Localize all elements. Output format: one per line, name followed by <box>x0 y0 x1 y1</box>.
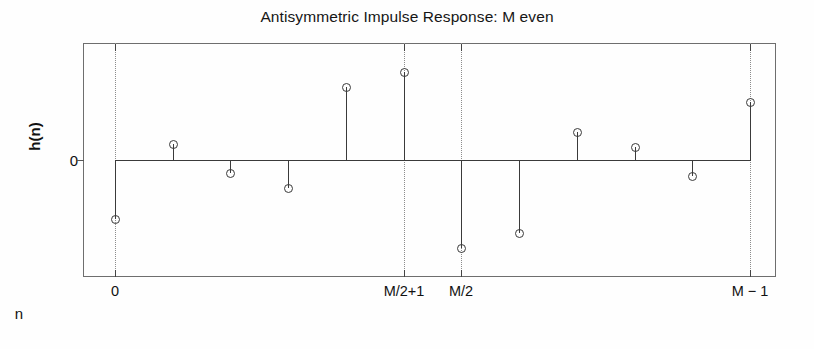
stem-marker-1 <box>169 140 178 149</box>
x-tick-label-0: 0 <box>111 283 119 299</box>
stem-marker-5 <box>400 68 409 77</box>
y-axis-label: h(n) <box>26 97 43 177</box>
x-tick-label-1: M/2+1 <box>384 283 425 299</box>
stem-marker-2 <box>226 169 235 178</box>
x-axis-label-wrap: n <box>0 305 814 322</box>
baseline <box>115 160 751 161</box>
x-tick-mark-top-1 <box>404 44 405 51</box>
y-tick-mark-zero <box>77 160 84 161</box>
stem-line-0 <box>115 160 116 219</box>
x-tick-mark-top-3 <box>750 44 751 51</box>
y-tick-label-zero: 0 <box>62 152 78 169</box>
stem-marker-8 <box>573 128 582 137</box>
stem-marker-6 <box>457 244 466 253</box>
x-tick-mark-bottom-0 <box>115 270 116 277</box>
x-tick-mark-top-0 <box>115 44 116 51</box>
stem-marker-10 <box>688 172 697 181</box>
stem-marker-0 <box>111 215 120 224</box>
x-tick-label-2: M/2 <box>449 283 473 299</box>
stem-marker-4 <box>342 83 351 92</box>
x-tick-mark-bottom-1 <box>404 270 405 277</box>
x-tick-mark-top-2 <box>461 44 462 51</box>
x-tick-mark-bottom-2 <box>461 270 462 277</box>
stem-marker-7 <box>515 229 524 238</box>
x-tick-label-3: M − 1 <box>732 283 769 299</box>
stem-marker-3 <box>284 184 293 193</box>
stem-marker-11 <box>746 98 755 107</box>
stem-line-11 <box>750 102 751 160</box>
x-tick-mark-bottom-3 <box>750 270 751 277</box>
stem-line-5 <box>404 72 405 160</box>
plot-title: Antisymmetric Impulse Response: M even <box>0 8 814 26</box>
stem-marker-9 <box>631 143 640 152</box>
x-axis-label: n <box>15 305 23 322</box>
stem-line-6 <box>461 160 462 248</box>
stem-line-4 <box>346 87 347 160</box>
figure-container: Antisymmetric Impulse Response: M even h… <box>0 0 814 349</box>
stem-line-7 <box>519 160 520 233</box>
